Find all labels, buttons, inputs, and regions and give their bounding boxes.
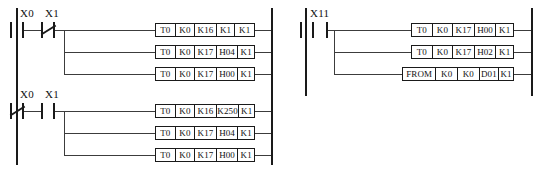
instruction-cell: H04 xyxy=(217,127,239,139)
instruction-cell: K1 xyxy=(496,24,513,36)
wire-rung2-box2-out xyxy=(255,133,271,134)
instruction-cell: T0 xyxy=(156,24,176,36)
wire-rung2-branch2 xyxy=(64,133,155,134)
wire-rung3-box1-out xyxy=(514,30,531,31)
instruction-cell: K17 xyxy=(195,149,217,161)
wire-rung3-box2-out xyxy=(514,52,531,53)
instruction-cell: T0 xyxy=(156,127,176,139)
contact-rung2-x1[interactable] xyxy=(41,103,55,119)
instruction-box[interactable]: T0 K0 K17 H04 K1 xyxy=(155,45,255,59)
contact-bar-left xyxy=(41,103,43,119)
instruction-cell: K0 xyxy=(176,105,196,117)
instruction-cell: D01 xyxy=(480,68,500,80)
instruction-cell: T0 xyxy=(156,105,176,117)
instruction-cell: T0 xyxy=(156,46,176,58)
wire-rung2-branch1 xyxy=(55,111,155,112)
wire-rung1-branch2 xyxy=(64,52,155,53)
wire-rung2-box1-out xyxy=(255,111,271,112)
contact-label-rung1-x0: X0 xyxy=(20,8,34,19)
instruction-cell: FROM xyxy=(403,68,436,80)
instruction-box[interactable]: T0 K0 K17 H00 K1 xyxy=(155,148,255,162)
wire-rung3-branch3 xyxy=(334,74,402,75)
instruction-cell: K0 xyxy=(176,24,196,36)
contact-label-rung1-x1: X1 xyxy=(45,8,59,19)
wire-rung1-branch3 xyxy=(64,74,155,75)
wire-rung1-x0-to-x1 xyxy=(24,30,41,31)
instruction-cell: K1 xyxy=(235,24,254,36)
instruction-cell: K16 xyxy=(195,105,217,117)
wire-rung1-box3-out xyxy=(255,74,271,75)
instruction-cell: H04 xyxy=(217,46,239,58)
instruction-cell: H00 xyxy=(217,149,239,161)
instruction-cell: K17 xyxy=(453,24,475,36)
instruction-cell: K0 xyxy=(176,149,196,161)
instruction-cell: K250 xyxy=(217,105,240,117)
contact-label-rung2-x1: X1 xyxy=(45,89,59,100)
instruction-cell: K1 xyxy=(238,127,254,139)
instruction-cell: K1 xyxy=(238,149,254,161)
right-network-right-rail xyxy=(531,8,533,96)
contact-label-rung3-x11: X11 xyxy=(310,8,329,19)
instruction-cell: K0 xyxy=(458,68,480,80)
wire-rung2-x0-to-x1 xyxy=(24,111,41,112)
wire-rung3-branch2 xyxy=(334,52,411,53)
instruction-cell: K0 xyxy=(436,68,458,80)
instruction-cell: K16 xyxy=(195,24,217,36)
instruction-cell: K0 xyxy=(176,127,196,139)
wire-rung2-branch3 xyxy=(64,155,155,156)
contact-rung3-x11[interactable] xyxy=(300,22,314,38)
contact-rung1-x0[interactable] xyxy=(10,22,24,38)
ladder-logic-diagram: X0 X1 T0 K0 K16 K1 K1 T0 K0 K17 H04 K1 T… xyxy=(0,0,543,173)
instruction-box[interactable]: T0 K0 K17 H00 K1 xyxy=(155,67,255,81)
instruction-box[interactable]: T0 K0 K17 H02 K1 xyxy=(411,45,514,59)
instruction-cell: K0 xyxy=(176,68,196,80)
contact-label-rung2-x0: X0 xyxy=(20,89,34,100)
instruction-box[interactable]: T0 K0 K17 H04 K1 xyxy=(155,126,255,140)
instruction-cell: K0 xyxy=(433,24,454,36)
contact-bar-left xyxy=(300,22,302,38)
instruction-cell: H00 xyxy=(217,68,239,80)
instruction-cell: K1 xyxy=(499,68,513,80)
instruction-cell: T0 xyxy=(412,46,433,58)
instruction-box[interactable]: T0 K0 K16 K250 K1 xyxy=(155,104,255,118)
instruction-cell: K1 xyxy=(496,46,513,58)
instruction-cell: H00 xyxy=(475,24,497,36)
instruction-cell: T0 xyxy=(156,149,176,161)
instruction-cell: K1 xyxy=(217,24,236,36)
contact-rung2-x0[interactable] xyxy=(10,103,24,119)
contact-rung1-x1[interactable] xyxy=(41,22,55,38)
wire-rung1-branch1 xyxy=(55,30,155,31)
left-network-right-rail xyxy=(271,8,273,165)
wire-rung3-box3-out xyxy=(514,74,531,75)
instruction-cell: H02 xyxy=(475,46,497,58)
instruction-cell: K1 xyxy=(239,105,254,117)
instruction-cell: K1 xyxy=(238,46,254,58)
wire-rung3-branch1 xyxy=(328,30,411,31)
instruction-cell: K17 xyxy=(195,46,217,58)
instruction-cell: K17 xyxy=(453,46,475,58)
instruction-cell: K0 xyxy=(176,46,196,58)
instruction-cell: K0 xyxy=(433,46,454,58)
wire-rung1-box2-out xyxy=(255,52,271,53)
contact-bar-left xyxy=(10,22,12,38)
wire-rung1-box1-out xyxy=(255,30,271,31)
instruction-box[interactable]: T0 K0 K16 K1 K1 xyxy=(155,23,255,37)
instruction-box[interactable]: FROM K0 K0 D01 K1 xyxy=(402,67,514,81)
contact-bar-right xyxy=(312,22,314,38)
instruction-cell: K1 xyxy=(238,68,254,80)
instruction-cell: K17 xyxy=(195,68,217,80)
instruction-cell: T0 xyxy=(412,24,433,36)
instruction-box[interactable]: T0 K0 K17 H00 K1 xyxy=(411,23,514,37)
instruction-cell: T0 xyxy=(156,68,176,80)
wire-rung2-box3-out xyxy=(255,155,271,156)
instruction-cell: K17 xyxy=(195,127,217,139)
